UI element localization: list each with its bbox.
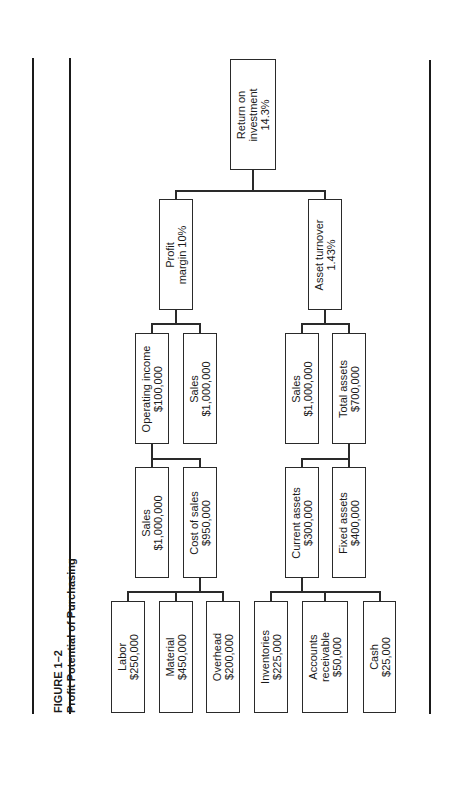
node-cost-of-sales: Cost of sales $950,000 [183,467,217,578]
node-labor: Labor $250,000 [111,601,145,713]
connector [324,591,326,601]
node-return-on-investment: Return on investment 14.3% [230,59,276,170]
connector [324,309,326,324]
connector [199,323,201,333]
connector [222,591,224,601]
connector [175,591,177,601]
connector [324,190,326,199]
connector [301,323,349,325]
node-total-assets: Total assets $700,000 [332,333,366,444]
node-current-assets: Current assets $300,000 [285,467,319,578]
connector [301,458,303,467]
connector [151,323,153,333]
node-accounts-receivable: Accounts receivable $50,000 [302,601,348,713]
connector [175,309,177,324]
node-fixed-assets: Fixed assets $400,000 [332,467,366,578]
connector [175,190,177,199]
node-inventories: Inventories $225,000 [254,601,288,713]
connector [199,458,201,467]
connector [270,591,272,601]
connector [151,443,153,459]
node-material: Material $450,000 [159,601,193,713]
node-sales-operating-income: Sales $1,000,000 [135,467,169,578]
connector [252,169,254,191]
node-sales-profit-margin: Sales $1,000,000 [183,333,217,444]
connector [348,458,350,467]
node-profit-margin: Profit margin 10% [159,199,193,310]
connector [379,591,381,601]
node-asset-turnover: Asset turnover 1.43% [308,199,342,310]
connector [151,458,153,467]
connector [151,458,200,460]
node-overhead: Overhead $200,000 [206,601,240,713]
left-rule-outer [32,58,34,714]
connector [301,577,303,592]
connector [348,323,350,333]
connector [151,323,200,325]
connector [175,190,326,192]
figure-number: FIGURE 1–2 [52,558,65,713]
figure-title: Profit Potential of Purchasing [65,558,78,713]
connector [348,443,350,459]
figure-caption: FIGURE 1–2 Profit Potential of Purchasin… [52,558,78,713]
node-sales-asset-turnover: Sales $1,000,000 [285,333,319,444]
right-rule [429,60,431,714]
connector [301,323,303,333]
connector [301,458,349,460]
node-cash: Cash $25,000 [363,601,396,713]
node-operating-income: Operating income $100,000 [135,333,169,444]
connector [127,591,129,601]
connector [199,577,201,592]
